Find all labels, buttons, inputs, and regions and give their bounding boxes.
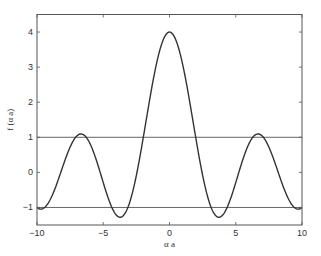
y-tick-label: 3	[28, 62, 33, 72]
x-axis-label: α a	[164, 239, 175, 249]
reference-lines	[37, 137, 302, 207]
x-axis-ticks: −10−50510	[29, 15, 307, 239]
y-axis-ticks: −101234	[23, 27, 302, 212]
curve-line	[37, 32, 302, 217]
y-tick-label: −1	[23, 202, 33, 212]
chart-canvas: −10−50510 −101234 α a f (α a)	[0, 0, 321, 256]
y-axis-label: f (α a)	[5, 109, 15, 131]
x-tick-label: 5	[233, 228, 238, 238]
y-tick-label: 4	[28, 27, 33, 37]
axes-frame	[37, 15, 302, 226]
y-tick-label: 2	[28, 97, 33, 107]
y-tick-label: 1	[28, 132, 33, 142]
x-tick-label: −10	[29, 228, 44, 238]
x-tick-label: 0	[167, 228, 172, 238]
y-tick-label: 0	[28, 167, 33, 177]
x-tick-label: 10	[297, 228, 307, 238]
function-curve	[37, 32, 302, 217]
x-tick-label: −5	[98, 228, 108, 238]
